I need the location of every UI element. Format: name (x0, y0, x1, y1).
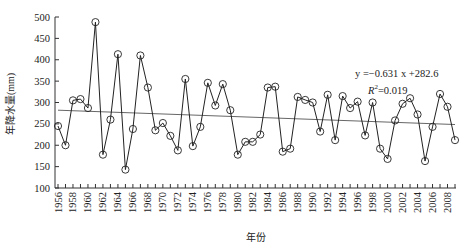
x-tick-label: 2006 (427, 192, 438, 213)
x-tick-label: 1992 (322, 192, 333, 213)
x-tick-label: 1994 (337, 191, 348, 213)
x-axis-title: 年份 (246, 231, 266, 243)
x-tick-label: 1986 (277, 192, 288, 213)
x-tick-label: 1962 (97, 192, 108, 213)
y-tick-label: 500 (34, 12, 50, 23)
x-tick-label: 1980 (232, 192, 243, 213)
x-tick-label: 1970 (157, 192, 168, 213)
x-tick-label: 1968 (142, 192, 153, 213)
x-tick-label: 2000 (382, 192, 393, 213)
x-tick-label: 1996 (352, 192, 363, 213)
x-tick-label: 1978 (217, 192, 228, 213)
y-axis-title: 年降水量(mm) (4, 73, 17, 135)
x-tick-label: 1956 (53, 192, 64, 213)
y-tick-label: 150 (34, 161, 50, 172)
trend-line (58, 110, 455, 124)
x-tick-label: 1998 (367, 192, 378, 213)
y-tick-label: 400 (34, 54, 50, 65)
x-tick-label: 1990 (307, 192, 318, 213)
y-tick-label: 300 (34, 97, 50, 108)
x-tick-label: 1982 (247, 192, 258, 213)
x-tick-label: 1958 (67, 192, 78, 213)
precipitation-chart: 100150200250300350400450500 195619581960… (0, 0, 471, 245)
x-tick-label: 1966 (127, 192, 138, 213)
r-squared: R2=0.019 (367, 83, 407, 96)
x-tick-label: 1984 (262, 191, 273, 213)
y-tick-label: 200 (34, 140, 50, 151)
y-tick-label: 350 (34, 76, 50, 87)
x-tick-label: 1976 (202, 192, 213, 213)
y-tick-label: 100 (34, 183, 50, 194)
x-axis: 1956195819601962196419661968197019721974… (53, 184, 457, 213)
x-tick-label: 2008 (442, 192, 453, 213)
x-tick-label: 1972 (172, 192, 183, 213)
y-axis: 100150200250300350400450500 (34, 12, 59, 194)
x-tick-label: 1988 (292, 192, 303, 213)
y-tick-label: 250 (34, 118, 50, 129)
regression-equation: y =−0.631 x +282.6 (355, 68, 438, 79)
x-tick-label: 1974 (187, 191, 198, 213)
x-tick-label: 2004 (412, 191, 423, 213)
x-tick-label: 2002 (397, 192, 408, 213)
x-tick-label: 1960 (82, 192, 93, 213)
x-tick-label: 1964 (112, 191, 123, 213)
y-tick-label: 450 (34, 33, 50, 44)
